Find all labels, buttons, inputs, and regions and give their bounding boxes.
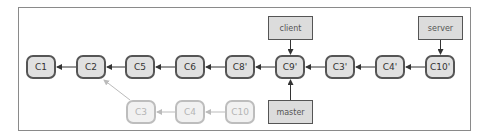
commit-c3-prime: C3' <box>325 55 355 79</box>
parent-arrow <box>104 80 130 100</box>
commit-c9-prime: C9' <box>275 55 305 79</box>
commit-c5: C5 <box>125 55 155 79</box>
commit-c1: C1 <box>26 55 56 79</box>
commit-c2: C2 <box>76 55 106 79</box>
branch-ref-server: server <box>418 16 463 40</box>
commit-c4: C4 <box>175 100 205 124</box>
commit-c10: C10 <box>225 100 255 124</box>
commit-c8-prime: C8' <box>225 55 255 79</box>
commit-c4-prime: C4' <box>375 55 405 79</box>
commit-c10-prime: C10' <box>425 55 455 79</box>
branch-ref-master: master <box>268 100 313 124</box>
commit-c6: C6 <box>175 55 205 79</box>
commit-c3: C3 <box>126 100 156 124</box>
branch-ref-client: client <box>268 16 313 40</box>
